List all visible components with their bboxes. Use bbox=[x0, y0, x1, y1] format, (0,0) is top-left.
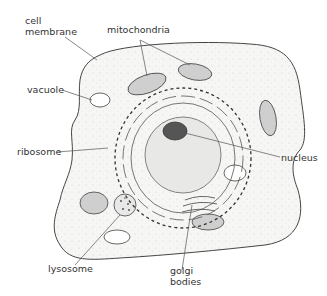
nucleolus bbox=[163, 122, 187, 140]
label-vacuole: vacuole bbox=[27, 84, 64, 95]
vacuole bbox=[90, 93, 110, 107]
label-ribosome: ribosome bbox=[17, 146, 61, 157]
label-mitochondria: mitochondria bbox=[107, 24, 170, 35]
label-golgi-bodies: golgi bodies bbox=[170, 265, 201, 287]
label-nucleus: nucleus bbox=[281, 152, 318, 163]
label-lysosome: lysosome bbox=[48, 263, 93, 274]
label-cell-membrane: cell membrane bbox=[25, 15, 77, 37]
cell-diagram: cell membrane mitochondria vacuole ribos… bbox=[0, 0, 327, 296]
